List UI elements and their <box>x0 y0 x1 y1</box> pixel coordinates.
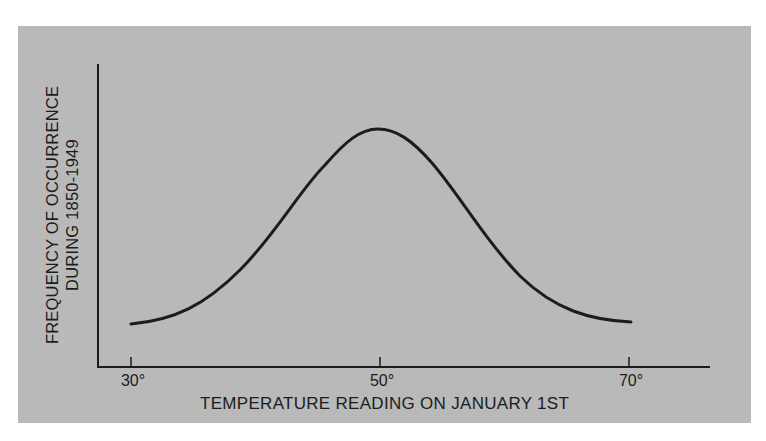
frequency-curve <box>131 129 631 324</box>
y-axis-title: FREQUENCY OF OCCURRENCE DURING 1850-1949 <box>42 86 82 344</box>
x-tick-label-70: 70° <box>619 372 643 390</box>
x-tick-label-30: 30° <box>121 372 145 390</box>
y-axis-title-line2: DURING 1850-1949 <box>62 86 82 344</box>
x-axis-title: TEMPERATURE READING ON JANUARY 1ST <box>200 394 569 414</box>
x-tick-label-50: 50° <box>370 372 394 390</box>
y-axis-title-line1: FREQUENCY OF OCCURRENCE <box>42 86 62 344</box>
